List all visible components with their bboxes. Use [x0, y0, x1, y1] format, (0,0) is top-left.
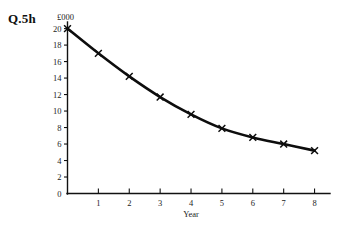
x-axis-ticks: 12345678: [96, 189, 316, 208]
y-tick-label: 2: [57, 172, 61, 182]
x-tick-label: 5: [220, 198, 224, 208]
line-chart: 02468101214161820 12345678 £000 Year: [0, 0, 345, 232]
x-tick-label: 2: [127, 198, 131, 208]
data-series-line: [68, 29, 315, 151]
y-tick-label: 4: [57, 156, 62, 166]
y-tick-label: 20: [53, 24, 62, 34]
y-axis-ticks: 02468101214161820: [53, 24, 68, 199]
y-tick-label: 8: [57, 123, 61, 133]
y-axis-title: £000: [57, 12, 74, 22]
data-point-marker: [95, 50, 102, 57]
y-tick-label: 12: [53, 90, 62, 100]
x-tick-label: 1: [96, 198, 100, 208]
x-axis-title: Year: [183, 209, 199, 219]
y-tick-label: 18: [53, 40, 62, 50]
x-tick-label: 7: [282, 198, 286, 208]
data-point-markers: [64, 25, 318, 154]
x-tick-label: 4: [189, 198, 194, 208]
data-point-marker: [126, 73, 133, 80]
y-tick-label: 16: [53, 57, 62, 67]
y-tick-label: 6: [57, 139, 61, 149]
y-tick-label: 14: [53, 73, 62, 83]
x-tick-label: 3: [158, 198, 162, 208]
y-tick-label: 0: [57, 189, 61, 199]
y-tick-label: 10: [53, 106, 62, 116]
x-tick-label: 6: [251, 198, 255, 208]
figure-container: Q.5h 02468101214161820 12345678 £000 Yea…: [0, 0, 345, 232]
x-tick-label: 8: [312, 198, 316, 208]
